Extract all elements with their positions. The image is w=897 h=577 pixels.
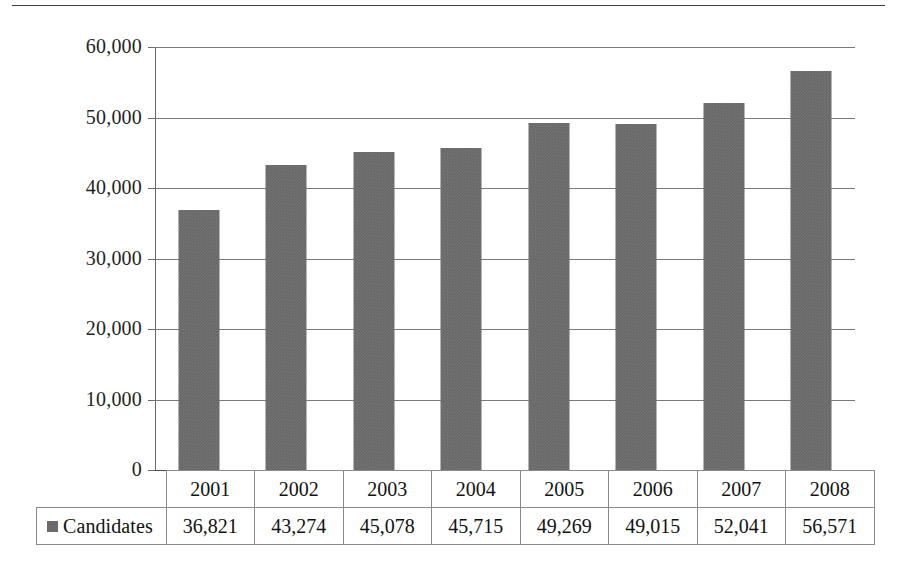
bar-2002 bbox=[266, 165, 307, 470]
bar-2006 bbox=[616, 124, 657, 470]
table-header-year-2006: 2006 bbox=[609, 471, 698, 508]
bar-2008 bbox=[791, 71, 832, 470]
bar-slot-2008 bbox=[768, 47, 856, 470]
bar-2004 bbox=[441, 148, 482, 470]
chart-data-table: 20012002200320042005200620072008 Candida… bbox=[36, 470, 875, 545]
table-cell-candidates-2007: 52,041 bbox=[697, 508, 786, 545]
bar-2005 bbox=[528, 123, 569, 470]
table-cell-candidates-2002: 43,274 bbox=[255, 508, 344, 545]
bar-slot-2006 bbox=[593, 47, 681, 470]
legend-entry-candidates: Candidates bbox=[37, 508, 167, 545]
y-tick-10000 bbox=[148, 400, 155, 401]
table-cell-candidates-2006: 49,015 bbox=[609, 508, 698, 545]
bar-series-candidates bbox=[155, 47, 855, 470]
table-header-year-2005: 2005 bbox=[520, 471, 609, 508]
bar-slot-2007 bbox=[680, 47, 768, 470]
y-tick-label-50000: 50,000 bbox=[86, 106, 142, 129]
legend-label-candidates: Candidates bbox=[63, 515, 153, 538]
y-tick-label-20000: 20,000 bbox=[86, 317, 142, 340]
bar-slot-2003 bbox=[330, 47, 418, 470]
y-tick-50000 bbox=[148, 118, 155, 119]
bar-slot-2001 bbox=[155, 47, 243, 470]
y-tick-label-10000: 10,000 bbox=[86, 388, 142, 411]
table-corner-empty-cell bbox=[37, 471, 167, 508]
y-tick-40000 bbox=[148, 188, 155, 189]
y-tick-label-40000: 40,000 bbox=[86, 176, 142, 199]
table-header-year-2001: 2001 bbox=[166, 471, 255, 508]
table-cell-candidates-2005: 49,269 bbox=[520, 508, 609, 545]
table-header-year-2002: 2002 bbox=[255, 471, 344, 508]
plot-area: 010,00020,00030,00040,00050,00060,000 bbox=[155, 47, 855, 470]
table-header-year-2004: 2004 bbox=[432, 471, 521, 508]
table-header-year-2003: 2003 bbox=[343, 471, 432, 508]
bar-slot-2005 bbox=[505, 47, 593, 470]
bar-2001 bbox=[178, 210, 219, 470]
bar-2003 bbox=[353, 152, 394, 470]
bar-slot-2002 bbox=[243, 47, 331, 470]
bar-slot-2004 bbox=[418, 47, 506, 470]
table-row-candidates: Candidates 36,82143,27445,07845,71549,26… bbox=[37, 508, 875, 545]
bar-2007 bbox=[703, 103, 744, 470]
y-tick-label-30000: 30,000 bbox=[86, 247, 142, 270]
top-divider-rule bbox=[12, 5, 885, 6]
table-header-year-2007: 2007 bbox=[697, 471, 786, 508]
table-row-years: 20012002200320042005200620072008 bbox=[37, 471, 875, 508]
y-tick-60000 bbox=[148, 47, 155, 48]
bar-chart-figure: 010,00020,00030,00040,00050,00060,000 20… bbox=[0, 0, 897, 577]
y-tick-20000 bbox=[148, 329, 155, 330]
legend-swatch-icon bbox=[47, 521, 58, 532]
table-header-year-2008: 2008 bbox=[786, 471, 875, 508]
table-cell-candidates-2001: 36,821 bbox=[166, 508, 255, 545]
table-cell-candidates-2003: 45,078 bbox=[343, 508, 432, 545]
y-tick-30000 bbox=[148, 259, 155, 260]
y-tick-label-60000: 60,000 bbox=[86, 35, 142, 58]
table-cell-candidates-2004: 45,715 bbox=[432, 508, 521, 545]
table-cell-candidates-2008: 56,571 bbox=[786, 508, 875, 545]
